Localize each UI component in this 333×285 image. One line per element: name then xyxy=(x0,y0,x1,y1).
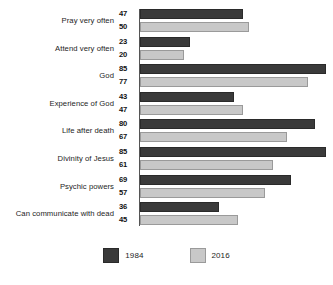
bar-group: Life after death 80 67 xyxy=(0,119,333,142)
value-column: 85 61 xyxy=(118,147,136,170)
value-2016: 57 xyxy=(119,188,127,198)
bars-column xyxy=(140,119,333,142)
value-1984: 69 xyxy=(119,175,127,185)
bar-1984 xyxy=(140,119,315,129)
value-2016: 20 xyxy=(119,50,127,60)
value-1984: 85 xyxy=(119,147,127,157)
value-2016: 61 xyxy=(119,160,127,170)
scan-edge-artifact xyxy=(0,278,333,285)
bar-1984 xyxy=(140,64,326,74)
bar-group: God 85 77 xyxy=(0,64,333,87)
value-1984: 36 xyxy=(119,202,127,212)
bars-column xyxy=(140,202,333,225)
value-1984: 23 xyxy=(119,37,127,47)
bar-group: Pray very often 47 50 xyxy=(0,9,333,32)
bar-1984 xyxy=(140,9,243,19)
value-column: 23 20 xyxy=(118,37,136,60)
bar-group: Attend very often 23 20 xyxy=(0,37,333,60)
value-column: 36 45 xyxy=(118,202,136,225)
bar-1984 xyxy=(140,202,219,212)
bar-1984 xyxy=(140,37,190,47)
value-column: 80 67 xyxy=(118,119,136,142)
bars-column xyxy=(140,37,333,60)
value-2016: 50 xyxy=(119,22,127,32)
value-column: 85 77 xyxy=(118,64,136,87)
bars-column xyxy=(140,147,333,170)
horizontal-bar-chart: Pray very often 47 50 Attend very often … xyxy=(0,0,333,285)
bars-column xyxy=(140,64,333,87)
value-2016: 47 xyxy=(119,105,127,115)
bar-1984 xyxy=(140,92,234,102)
value-column: 69 57 xyxy=(118,175,136,198)
bar-group: Psychic powers 69 57 xyxy=(0,175,333,198)
legend-item-2016: 2016 xyxy=(190,248,230,263)
bar-2016 xyxy=(140,22,249,32)
bar-2016 xyxy=(140,50,184,60)
value-2016: 45 xyxy=(119,215,127,225)
bar-2016 xyxy=(140,215,238,225)
value-1984: 43 xyxy=(119,92,127,102)
bar-2016 xyxy=(140,132,287,142)
bars-column xyxy=(140,9,333,32)
legend-label-2016: 2016 xyxy=(212,251,230,260)
bar-2016 xyxy=(140,188,265,198)
category-label: Can communicate with dead xyxy=(0,202,118,225)
legend-label-1984: 1984 xyxy=(125,251,143,260)
bars-column xyxy=(140,92,333,115)
bar-2016 xyxy=(140,105,243,115)
category-label: Pray very often xyxy=(0,9,118,32)
value-column: 43 47 xyxy=(118,92,136,115)
bar-1984 xyxy=(140,175,291,185)
dark-swatch-icon xyxy=(103,248,119,263)
light-swatch-icon xyxy=(190,248,206,263)
bar-2016 xyxy=(140,160,273,170)
chart-legend: 1984 2016 xyxy=(0,248,333,263)
value-1984: 85 xyxy=(119,64,127,74)
category-label: Psychic powers xyxy=(0,175,118,198)
value-1984: 47 xyxy=(119,9,127,19)
value-column: 47 50 xyxy=(118,9,136,32)
bar-group: Experience of God 43 47 xyxy=(0,92,333,115)
category-label: Experience of God xyxy=(0,92,118,115)
category-label: God xyxy=(0,64,118,87)
bars-column xyxy=(140,175,333,198)
bar-group: Divinity of Jesus 85 61 xyxy=(0,147,333,170)
legend-item-1984: 1984 xyxy=(103,248,143,263)
category-label: Attend very often xyxy=(0,37,118,60)
category-label: Divinity of Jesus xyxy=(0,147,118,170)
bar-1984 xyxy=(140,147,326,157)
plot-area: Pray very often 47 50 Attend very often … xyxy=(0,9,333,230)
bar-2016 xyxy=(140,77,308,87)
value-2016: 77 xyxy=(119,77,127,87)
category-label: Life after death xyxy=(0,119,118,142)
value-2016: 67 xyxy=(119,132,127,142)
value-1984: 80 xyxy=(119,119,127,129)
bar-group: Can communicate with dead 36 45 xyxy=(0,202,333,225)
